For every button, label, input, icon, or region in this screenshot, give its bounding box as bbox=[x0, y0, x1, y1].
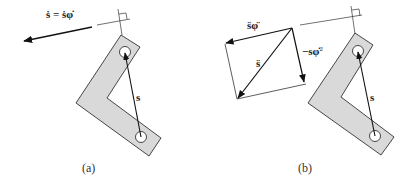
centripetal-accel-text: −sφ̇ bbox=[302, 45, 319, 57]
right-angle-marker-a bbox=[119, 13, 127, 19]
right-angle-marker-b bbox=[352, 9, 360, 16]
position-label-a: s bbox=[136, 92, 140, 103]
caption-a: (a) bbox=[82, 162, 95, 174]
upper-pin-hole-b bbox=[353, 46, 364, 57]
velocity-label: ṡ = ṡφ̇ bbox=[46, 9, 73, 20]
tangential-accel-label: s̈φ̈ bbox=[247, 20, 258, 31]
extension-line-a bbox=[118, 9, 122, 35]
diagram-graphics bbox=[0, 0, 416, 181]
parallelogram-left-side bbox=[225, 44, 237, 99]
centripetal-accel-exponent: 2 bbox=[319, 45, 323, 53]
l-shaped-link-a bbox=[76, 35, 161, 156]
velocity-vector-a bbox=[24, 27, 92, 41]
position-label-b: s bbox=[370, 92, 374, 103]
perpendicular-line-a bbox=[97, 19, 130, 25]
kinematics-figure: ṡ = ṡφ̇ s (a) s̈φ̈ −sφ̇2 s̈ s (b) bbox=[0, 0, 416, 181]
resultant-accel-label: s̈ bbox=[256, 58, 260, 69]
caption-b: (b) bbox=[298, 162, 312, 174]
centripetal-accel-label: −sφ̇2 bbox=[302, 46, 323, 57]
panel-a bbox=[24, 9, 161, 156]
